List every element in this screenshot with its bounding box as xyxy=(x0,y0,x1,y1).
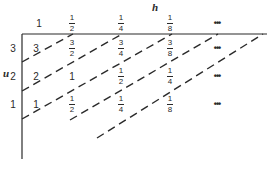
recurrence-table-diagram: h u 1121418•••3213323438•••211214•••1121… xyxy=(0,0,269,171)
row-header: 3 xyxy=(10,44,16,54)
numerator: 3 xyxy=(119,39,123,47)
denominator: 8 xyxy=(168,25,172,33)
numerator: 3 xyxy=(70,39,74,47)
dashed-diagonal-1 xyxy=(22,34,73,62)
table-cell: 12 xyxy=(69,95,75,114)
table-cell: 3 xyxy=(33,44,39,54)
denominator: 2 xyxy=(119,78,123,86)
table-cell: 1 xyxy=(69,72,75,82)
column-header: ••• xyxy=(214,18,220,28)
numerator: 1 xyxy=(119,14,123,22)
table-cell: 12 xyxy=(118,67,124,86)
numerator: 1 xyxy=(70,14,74,22)
denominator: 2 xyxy=(70,50,74,58)
column-header: 12 xyxy=(69,14,75,33)
denominator: 8 xyxy=(168,106,172,114)
numerator: 1 xyxy=(70,95,74,103)
table-cell: 2 xyxy=(33,72,39,82)
column-header: 1 xyxy=(36,19,42,29)
h-axis-label: h xyxy=(152,1,158,13)
row-header: 2 xyxy=(10,72,16,82)
table-cell: 38 xyxy=(167,39,173,58)
denominator: 4 xyxy=(119,25,123,33)
denominator: 2 xyxy=(70,106,74,114)
table-cell: ••• xyxy=(214,99,220,109)
u-axis-label: u xyxy=(3,67,9,79)
table-cell: 34 xyxy=(118,39,124,58)
column-header: 14 xyxy=(118,14,124,33)
table-cell: ••• xyxy=(214,71,220,81)
denominator: 4 xyxy=(119,50,123,58)
numerator: 3 xyxy=(168,39,172,47)
table-cell: 32 xyxy=(69,39,75,58)
denominator: 2 xyxy=(70,25,74,33)
denominator: 4 xyxy=(168,78,172,86)
numerator: 1 xyxy=(168,67,172,75)
denominator: 4 xyxy=(119,106,123,114)
table-cell: 18 xyxy=(167,95,173,114)
row-header: 1 xyxy=(10,100,16,110)
numerator: 1 xyxy=(168,95,172,103)
numerator: 1 xyxy=(119,95,123,103)
table-cell: ••• xyxy=(214,43,220,53)
table-cell: 14 xyxy=(118,95,124,114)
table-cell: 1 xyxy=(33,100,39,110)
numerator: 1 xyxy=(168,14,172,22)
dashed-diagonal-4 xyxy=(70,34,218,120)
dashed-diagonals xyxy=(22,34,263,138)
column-header: 18 xyxy=(167,14,173,33)
table-cell: 14 xyxy=(167,67,173,86)
numerator: 1 xyxy=(119,67,123,75)
dashed-diagonal-3 xyxy=(22,34,172,119)
denominator: 8 xyxy=(168,50,172,58)
